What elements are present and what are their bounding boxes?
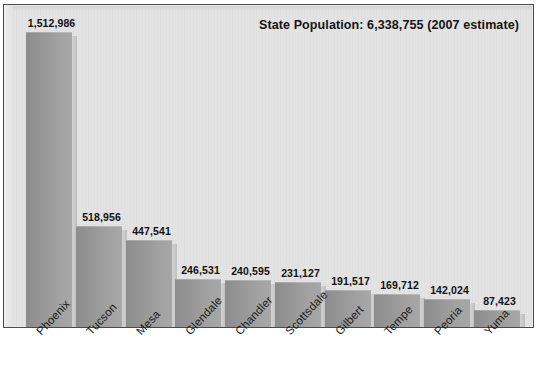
chart-plot-area: State Population: 6,338,755 (2007 estima… — [3, 4, 534, 328]
bar-value-label: 447,541 — [114, 225, 189, 237]
population-bar-chart: State Population: 6,338,755 (2007 estima… — [0, 0, 539, 390]
category-axis: PhoenixTucsonMesaGlendaleChandlerScottsd… — [0, 329, 539, 390]
chart-title: State Population: 6,338,755 (2007 estima… — [259, 18, 519, 32]
axis-gutter — [4, 5, 13, 327]
bar-value-label: 87,423 — [462, 295, 534, 307]
bar-highlight — [520, 314, 525, 327]
bar-body — [26, 32, 72, 327]
bar-value-label: 1,512,986 — [14, 17, 89, 29]
bar-phoenix: 1,512,986 — [26, 10, 77, 327]
